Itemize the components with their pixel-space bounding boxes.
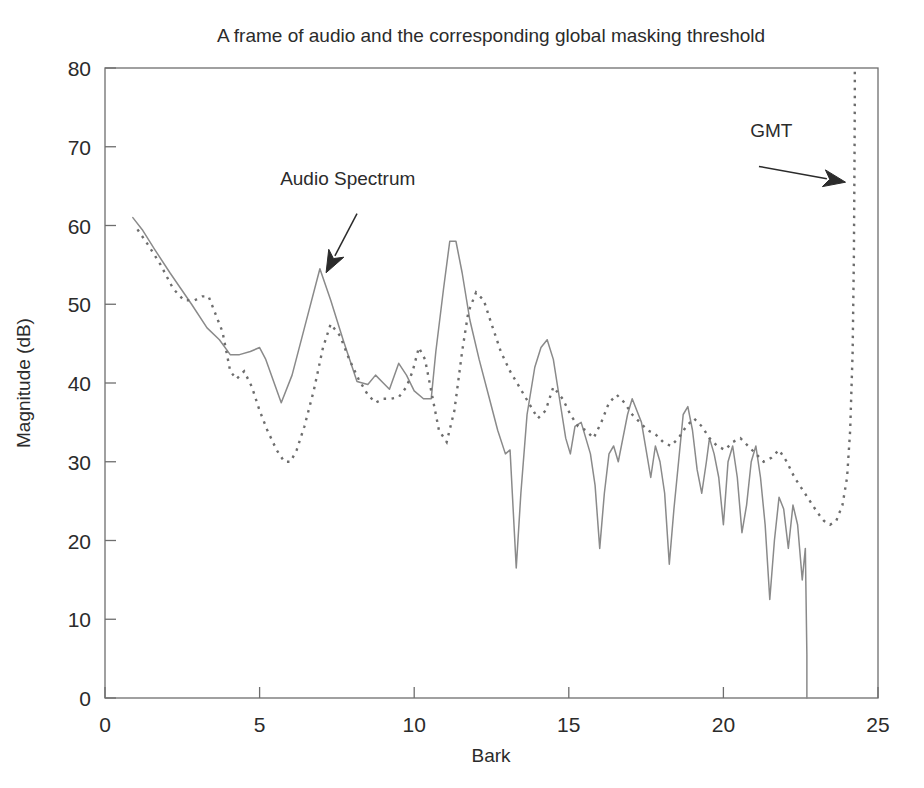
y-tick-label: 50 — [68, 293, 91, 316]
y-axis-label: Magnitude (dB) — [13, 318, 34, 448]
x-tick-label: 20 — [712, 713, 735, 736]
x-tick-label: 10 — [403, 713, 426, 736]
chart-title: A frame of audio and the corresponding g… — [217, 25, 765, 46]
y-tick-label: 60 — [68, 215, 91, 238]
y-tick-label: 20 — [68, 530, 91, 553]
figure-background — [0, 0, 924, 788]
y-tick-label: 10 — [68, 608, 91, 631]
x-tick-label: 25 — [866, 713, 889, 736]
chart-figure: A frame of audio and the corresponding g… — [0, 0, 924, 788]
y-tick-label: 80 — [68, 57, 91, 80]
annotation-label: Audio Spectrum — [280, 168, 415, 189]
x-tick-label: 5 — [254, 713, 266, 736]
y-tick-label: 40 — [68, 372, 91, 395]
x-tick-label: 0 — [99, 713, 111, 736]
x-tick-label: 15 — [557, 713, 580, 736]
x-axis-label: Bark — [471, 745, 511, 766]
y-tick-label: 30 — [68, 451, 91, 474]
y-tick-label: 0 — [79, 687, 91, 710]
y-tick-label: 70 — [68, 136, 91, 159]
annotation-label: GMT — [750, 120, 793, 141]
